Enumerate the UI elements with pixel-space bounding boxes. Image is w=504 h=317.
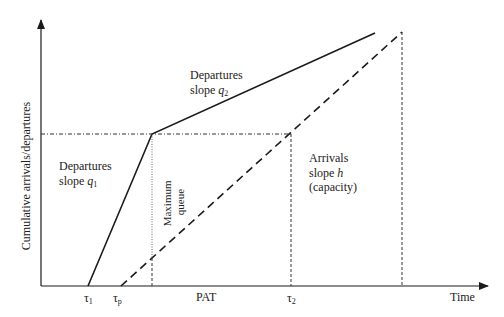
tick-tau2: τ2 — [287, 291, 296, 306]
queue-diagram: Cumulative arrivals/departures Time Depa… — [0, 0, 504, 317]
y-axis-label: Cumulative arrivals/departures — [19, 102, 33, 251]
tick-pat: PAT — [196, 290, 217, 304]
arrivals-curve — [121, 32, 402, 286]
arrivals-h-label: Arrivals slope h (capacity) — [309, 151, 357, 194]
x-axis-label: Time — [450, 290, 475, 304]
departures-q1-label: Departures slope q1 — [59, 159, 115, 189]
departures-q2-label: Departures slope q2 — [190, 68, 246, 98]
maximum-queue-label: Maximum queue — [161, 178, 186, 227]
tick-taup: τp — [113, 291, 122, 306]
tick-tau1: τ1 — [84, 291, 93, 306]
